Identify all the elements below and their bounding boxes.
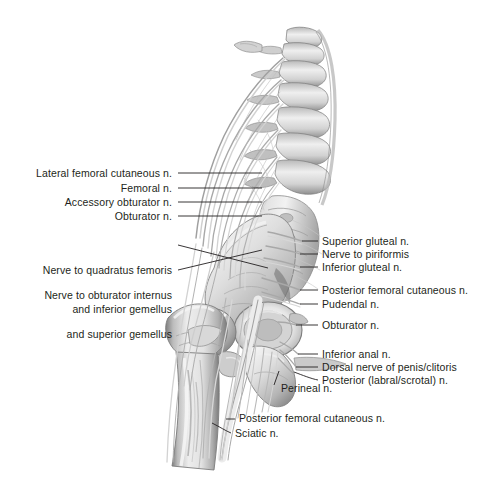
- label-lateral-femoral-cutaneous-n: Lateral femoral cutaneous n.: [36, 167, 172, 180]
- label-posterior-femoral-cutaneous-n-lower: Posterior femoral cutaneous n.: [239, 412, 385, 425]
- label-perineal-n: Perineal n.: [281, 382, 332, 395]
- label-dorsal-nerve-of-penis-clitoris: Dorsal nerve of penis/clitoris: [322, 361, 457, 374]
- label-nerve-to-piriformis: Nerve to piriformis: [322, 248, 409, 261]
- label-accessory-obturator-n: Accessory obturator n.: [65, 196, 172, 209]
- label-superior-gluteal-n: Superior gluteal n.: [322, 235, 409, 248]
- label-posterior-labral-scrotal-n: Posterior (labral/scrotal) n.: [322, 374, 448, 387]
- anatomical-figure: Lateral femoral cutaneous n. Femoral n. …: [0, 0, 488, 482]
- label-posterior-femoral-cutaneous-n-upper: Posterior femoral cutaneous n.: [322, 284, 468, 297]
- label-obturator-n-right: Obturator n.: [322, 319, 379, 332]
- label-nerve-to-obturator-internus: Nerve to obturator internus and superior…: [44, 263, 172, 367]
- leader-posterior-labral-scrotal-n: [294, 372, 318, 380]
- label-inferior-gluteal-n: Inferior gluteal n.: [322, 261, 402, 274]
- label-inferior-anal-n: Inferior anal n.: [322, 348, 391, 361]
- label-pudendal-n: Pudendal n.: [322, 298, 379, 311]
- label-line-1: Nerve to obturator internus: [44, 289, 172, 302]
- label-sciatic-n: Sciatic n.: [235, 427, 279, 440]
- label-obturator-n-left: Obturator n.: [115, 210, 172, 223]
- label-femoral-n: Femoral n.: [121, 182, 172, 195]
- label-line-2: and superior gemellus: [44, 328, 172, 341]
